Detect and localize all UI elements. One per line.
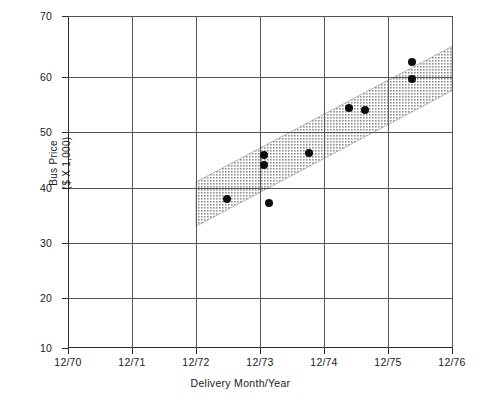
xtick-mark-12-70 bbox=[68, 348, 69, 354]
xtick-label-12-72: 12/72 bbox=[168, 356, 224, 368]
xtick-label-12-70: 12/70 bbox=[40, 356, 96, 368]
ytick-mark-30 bbox=[62, 243, 68, 244]
xtick-label-12-75: 12/75 bbox=[360, 356, 416, 368]
data-point bbox=[223, 195, 231, 203]
ytick-label-40: 40 bbox=[0, 182, 52, 194]
x-axis-title: Delivery Month/Year bbox=[0, 377, 481, 389]
xtick-mark-12-71 bbox=[132, 348, 133, 354]
gridline-x-12-71 bbox=[132, 16, 133, 348]
y-axis-title: Bus Price ($ X 1,000) bbox=[47, 111, 73, 215]
ytick-label-20: 20 bbox=[0, 292, 52, 304]
data-point bbox=[260, 161, 268, 169]
gridline-x-12-72 bbox=[196, 16, 197, 348]
xtick-label-12-71: 12/71 bbox=[104, 356, 160, 368]
xtick-label-12-73: 12/73 bbox=[232, 356, 288, 368]
ytick-label-70: 70 bbox=[0, 10, 52, 22]
ytick-mark-70 bbox=[62, 16, 68, 17]
xtick-mark-12-73 bbox=[260, 348, 261, 354]
gridline-x-12-74 bbox=[324, 16, 325, 348]
data-point bbox=[345, 104, 353, 112]
chart-figure: 70 60 50 40 30 20 10 12/70 12/71 12/72 1… bbox=[0, 0, 481, 406]
ytick-label-60: 60 bbox=[0, 71, 52, 83]
ytick-label-50: 50 bbox=[0, 126, 52, 138]
ytick-label-10: 10 bbox=[0, 342, 52, 354]
xtick-mark-12-75 bbox=[388, 348, 389, 354]
ytick-label-30: 30 bbox=[0, 237, 52, 249]
xtick-mark-12-76 bbox=[452, 348, 453, 354]
gridline-x-12-76 bbox=[452, 16, 453, 348]
ytick-mark-20 bbox=[62, 298, 68, 299]
y-axis-title-line2: ($ X 1,000) bbox=[60, 111, 73, 215]
gridline-x-12-75 bbox=[388, 16, 389, 348]
ytick-mark-60 bbox=[62, 77, 68, 78]
y-axis-title-line1: Bus Price bbox=[47, 111, 60, 215]
data-point bbox=[265, 199, 273, 207]
data-point bbox=[305, 149, 313, 157]
data-point bbox=[260, 151, 268, 159]
xtick-label-12-76: 12/76 bbox=[424, 356, 480, 368]
xtick-mark-12-72 bbox=[196, 348, 197, 354]
gridline-x-12-73 bbox=[260, 16, 261, 348]
xtick-label-12-74: 12/74 bbox=[296, 356, 352, 368]
xtick-mark-12-74 bbox=[324, 348, 325, 354]
